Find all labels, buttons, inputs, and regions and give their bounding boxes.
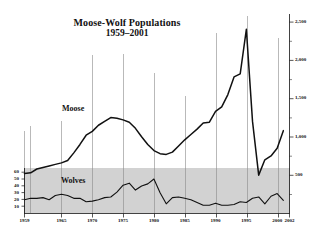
chart-title: Moose-Wolf Populations bbox=[52, 17, 202, 28]
right-axis-tick-label: 1,500 bbox=[295, 95, 306, 100]
x-axis-tick-label: 1970 bbox=[81, 218, 103, 223]
right-axis-tick-label: 1,000 bbox=[295, 134, 306, 139]
left-axis-tick-label: 10 bbox=[7, 204, 19, 209]
moose-series-line bbox=[25, 29, 284, 175]
x-axis-tick-label: 2002 bbox=[279, 218, 301, 223]
x-axis-ticks bbox=[25, 214, 290, 218]
right-axis-tick-label: 500 bbox=[295, 172, 303, 177]
x-axis-tick-label: 1975 bbox=[112, 218, 134, 223]
x-axis-tick-label: 1959 bbox=[14, 218, 36, 223]
left-axis-tick-label: 30 bbox=[7, 190, 19, 195]
moose-series-label: Moose bbox=[62, 104, 84, 113]
wolves-shaded-band bbox=[24, 168, 290, 213]
x-axis-tick-label: 1980 bbox=[143, 218, 165, 223]
moose-wolf-population-chart: Moose-Wolf Populations 1959–2001 Moose W… bbox=[0, 0, 314, 235]
left-axis-tick-label: 60 bbox=[7, 169, 19, 174]
right-axis-tick-label: 2,000 bbox=[295, 57, 306, 62]
x-axis-tick-label: 1985 bbox=[174, 218, 196, 223]
right-axis-ticks bbox=[290, 22, 294, 194]
x-axis-tick-label: 1965 bbox=[50, 218, 72, 223]
left-axis-tick-label: 40 bbox=[7, 183, 19, 188]
left-axis-tick-label: 50 bbox=[7, 176, 19, 181]
wolves-series-label: Wolves bbox=[61, 176, 85, 185]
left-axis-tick-label: 20 bbox=[7, 197, 19, 202]
right-axis-tick-label: 2,500 bbox=[295, 19, 306, 24]
chart-title-block: Moose-Wolf Populations 1959–2001 bbox=[52, 17, 202, 39]
chart-subtitle: 1959–2001 bbox=[52, 28, 202, 39]
x-axis-tick-label: 1990 bbox=[205, 218, 227, 223]
x-axis-tick-label: 1995 bbox=[235, 218, 257, 223]
